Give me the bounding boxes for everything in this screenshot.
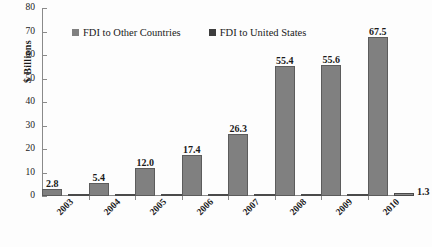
bar-group: 5.40.1 bbox=[89, 8, 136, 196]
bar-value-label: 12.0 bbox=[136, 157, 154, 168]
bar-pair: 55.40.5 bbox=[275, 8, 322, 196]
bar-groups: 2.80.15.40.112.00.217.40.226.30.255.40.5… bbox=[42, 8, 414, 196]
bar-group: 26.30.2 bbox=[228, 8, 275, 196]
x-axis-label-cell: 2003 bbox=[42, 198, 89, 244]
bar-pair: 12.00.2 bbox=[135, 8, 182, 196]
bar-united-states: 0.5 bbox=[301, 194, 321, 196]
y-axis-tick-label: 0 bbox=[30, 191, 35, 201]
x-axis-tick-label: 2007 bbox=[241, 197, 262, 218]
x-axis-label-cell: 2005 bbox=[135, 198, 182, 244]
bar-pair: 17.40.2 bbox=[182, 8, 229, 196]
bar-other-countries: 17.4 bbox=[182, 155, 202, 196]
bar-value-label: 5.4 bbox=[92, 172, 105, 183]
y-axis-tick-label: 40 bbox=[26, 97, 36, 107]
bar-value-label: 1.3 bbox=[417, 186, 430, 197]
x-axis-tick-label: 2004 bbox=[101, 197, 122, 218]
bar-value-label: 17.4 bbox=[183, 144, 201, 155]
bar-value-label: 26.3 bbox=[229, 123, 247, 134]
bar-pair: 5.40.1 bbox=[89, 8, 136, 196]
bar-group: 2.80.1 bbox=[42, 8, 89, 196]
bar-other-countries: 26.3 bbox=[228, 134, 248, 196]
bar-other-countries: 5.4 bbox=[89, 183, 109, 196]
bar-other-countries: 55.4 bbox=[275, 66, 295, 196]
bar-group: 12.00.2 bbox=[135, 8, 182, 196]
bar-other-countries: 67.5 bbox=[368, 37, 388, 196]
y-axis-tick-label: 10 bbox=[26, 168, 36, 178]
bar-united-states: 0.2 bbox=[254, 194, 274, 196]
bar-united-states: 1.3 bbox=[394, 193, 414, 196]
x-axis-tick-label: 2009 bbox=[334, 197, 355, 218]
x-axis-label-cell: 2008 bbox=[275, 198, 322, 244]
bar-pair: 55.60.9 bbox=[321, 8, 368, 196]
plot-area: 01020304050607080 2.80.15.40.112.00.217.… bbox=[42, 8, 414, 196]
bar-group: 17.40.2 bbox=[182, 8, 229, 196]
x-axis-label-cell: 2010 bbox=[368, 198, 415, 244]
x-axis-label-cell: 2006 bbox=[182, 198, 229, 244]
y-axis-tick-label: 70 bbox=[26, 27, 36, 37]
bar-value-label: 67.5 bbox=[369, 26, 387, 37]
y-axis-tick-label: 20 bbox=[26, 144, 36, 154]
bar-value-label: 55.4 bbox=[276, 55, 294, 66]
x-axis-tick-label: 2010 bbox=[380, 197, 401, 218]
bar-united-states: 0.1 bbox=[68, 194, 88, 196]
bar-united-states: 0.2 bbox=[208, 194, 228, 196]
bar-other-countries: 2.8 bbox=[42, 189, 62, 196]
bar-other-countries: 12.0 bbox=[135, 168, 155, 196]
y-axis-tick bbox=[42, 196, 47, 197]
x-axis-tick-label: 2003 bbox=[55, 197, 76, 218]
x-axis-tick-label: 2006 bbox=[194, 197, 215, 218]
bar-value-label: 55.6 bbox=[322, 54, 340, 65]
bar-chart: $ Billions FDI to Other Countries FDI to… bbox=[0, 0, 432, 247]
y-axis-tick-label: 80 bbox=[26, 3, 36, 13]
bar-united-states: 0.2 bbox=[161, 194, 181, 196]
y-axis-tick-label: 60 bbox=[26, 50, 36, 60]
bar-united-states: 0.9 bbox=[347, 194, 367, 196]
x-axis-label-cell: 2004 bbox=[89, 198, 136, 244]
bar-group: 55.60.9 bbox=[321, 8, 368, 196]
y-axis-tick-label: 30 bbox=[26, 121, 36, 131]
x-axis-label-cell: 2009 bbox=[321, 198, 368, 244]
x-axis-label-cell: 2007 bbox=[228, 198, 275, 244]
x-axis-tick-label: 2008 bbox=[287, 197, 308, 218]
x-axis-tick-label: 2005 bbox=[148, 197, 169, 218]
bar-united-states: 0.1 bbox=[115, 194, 135, 196]
bar-pair: 26.30.2 bbox=[228, 8, 275, 196]
x-axis-labels: 20032004200520062007200820092010 bbox=[42, 198, 414, 244]
y-axis-tick-label: 50 bbox=[26, 74, 36, 84]
bar-pair: 67.51.3 bbox=[368, 8, 415, 196]
bar-group: 55.40.5 bbox=[275, 8, 322, 196]
bar-pair: 2.80.1 bbox=[42, 8, 89, 196]
bar-value-label: 2.8 bbox=[46, 178, 59, 189]
bar-group: 67.51.3 bbox=[368, 8, 415, 196]
bar-other-countries: 55.6 bbox=[321, 65, 341, 196]
